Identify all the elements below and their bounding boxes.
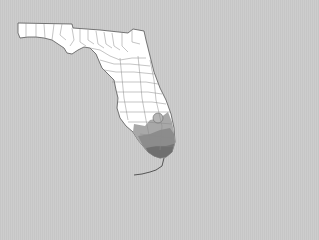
florida-county-map [0,0,193,198]
florida-keys [134,158,164,175]
lake-okeechobee [153,113,163,123]
